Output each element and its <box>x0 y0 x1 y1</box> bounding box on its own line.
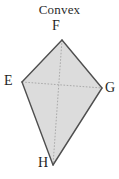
vertex-label-g: G <box>105 81 115 95</box>
vertex-label-h: H <box>38 156 48 170</box>
quadrilateral-shape <box>22 40 102 165</box>
vertex-label-f: F <box>52 19 60 33</box>
vertex-label-e: E <box>4 74 13 88</box>
figure-canvas: Convex F E G H <box>0 0 119 179</box>
